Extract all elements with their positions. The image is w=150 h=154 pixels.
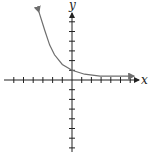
y-axis xyxy=(69,13,75,152)
graph: x y xyxy=(0,0,150,154)
exponential-curve xyxy=(39,12,134,76)
y-axis-label: y xyxy=(68,0,76,12)
x-axis-label: x xyxy=(141,73,148,87)
